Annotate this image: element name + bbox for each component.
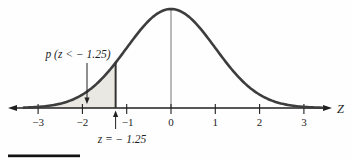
axis-right-arrow-icon (323, 105, 332, 111)
boundary-label: z = − 1.25 (97, 133, 147, 145)
tick-label-3: 3 (301, 116, 307, 128)
normal-distribution-figure: −3 −2 −1 0 1 2 3 p (z < − 1.25) z = − 1.… (0, 0, 351, 161)
tail-probability-label: p (z < − 1.25) (44, 48, 110, 61)
axis-left-arrow-icon (8, 105, 17, 111)
tick-label-neg2: −2 (77, 116, 89, 128)
tick-label-1: 1 (213, 116, 219, 128)
z-axis-variable-label: Z (337, 102, 345, 116)
tick-label-2: 2 (257, 116, 263, 128)
tick-label-neg3: −3 (32, 116, 44, 128)
normal-curve-plot: −3 −2 −1 0 1 2 3 p (z < − 1.25) z = − 1.… (0, 0, 351, 161)
tick-label-0: 0 (168, 116, 174, 128)
annotation-up-arrow-icon (113, 111, 118, 118)
tick-label-neg1: −1 (122, 116, 134, 128)
z-axis-tick-labels: −3 −2 −1 0 1 2 3 (32, 116, 307, 128)
figure-bottom-rule (8, 155, 80, 158)
